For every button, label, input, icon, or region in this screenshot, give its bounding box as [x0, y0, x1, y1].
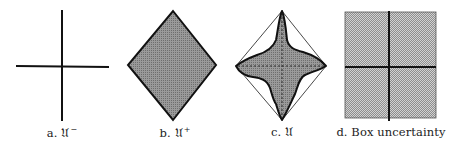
caption-d: d. Box uncertainty: [336, 125, 445, 139]
caption-prefix: d.: [336, 125, 347, 139]
caption-symbol: 𝔘: [175, 126, 183, 140]
panel-b: b. 𝔘+: [115, 0, 230, 146]
caption-prefix: c.: [271, 125, 281, 139]
caption-c: c. 𝔘: [271, 125, 293, 139]
caption-label: Box uncertainty: [351, 125, 445, 139]
caption-superscript: −: [70, 125, 77, 134]
caption-prefix: b.: [160, 126, 171, 140]
panel-a: a. 𝔘−: [0, 0, 115, 146]
caption-a: a. 𝔘−: [47, 125, 77, 140]
caption-superscript: +: [184, 125, 191, 134]
caption-b: b. 𝔘+: [160, 125, 191, 140]
caption-symbol: 𝔘: [61, 126, 69, 140]
panel-c: c. 𝔘: [225, 0, 340, 146]
caption-prefix: a.: [47, 126, 58, 140]
caption-symbol: 𝔘: [285, 125, 293, 139]
panel-d: d. Box uncertainty: [335, 0, 452, 146]
